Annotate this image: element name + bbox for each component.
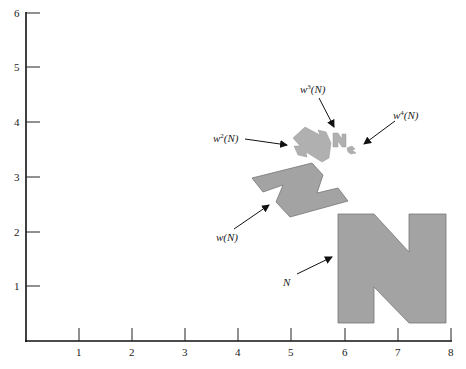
x-tick-label-6: 6 [342,346,348,358]
shape-wN [252,163,348,217]
arrow-w4N [364,121,395,144]
shape-w2N [293,127,331,162]
label-wN: w(N) [216,231,238,244]
x-tick-label-5: 5 [288,346,294,358]
x-tick-label-3: 3 [182,346,188,358]
arrow-N [297,257,332,274]
x-tick-label-4: 4 [235,346,241,358]
x-tick-label-7: 7 [395,346,401,358]
shape-w4N [347,146,356,154]
y-tick-label-2: 2 [14,226,20,238]
x-tick-label-8: 8 [448,346,454,358]
label-w4N: w4(N) [393,109,419,122]
y-ticks: 1 2 3 4 5 6 [14,7,40,292]
x-tick-label-1: 1 [76,346,82,358]
y-tick-label-1: 1 [14,280,20,292]
shape-w3N [333,133,346,147]
arrow-w3N [319,98,334,127]
label-w3N: w3(N) [300,83,326,96]
arrow-w2N [245,139,287,145]
y-tick-label-3: 3 [14,171,20,183]
x-ticks: 1 2 3 4 5 6 7 8 [76,328,454,358]
arrow-wN [234,205,269,229]
label-w2N: w2(N) [213,132,239,145]
y-tick-label-5: 5 [14,61,20,73]
y-tick-label-6: 6 [14,7,20,19]
x-tick-label-2: 2 [129,346,135,358]
label-N: N [282,276,291,288]
shape-N [338,214,446,323]
ifs-diagram: 1 2 3 4 5 6 1 2 3 4 5 6 7 8 [0,0,466,369]
y-tick-label-4: 4 [14,116,20,128]
